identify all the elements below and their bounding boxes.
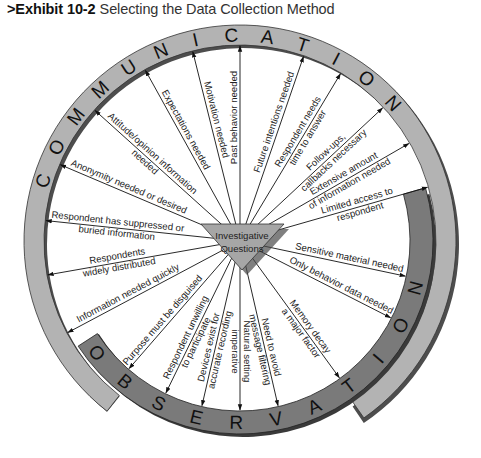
spoke-label: imperative xyxy=(230,329,241,373)
svg-text:C: C xyxy=(224,24,239,46)
spoke-sensitive-material: Sensitive material needed xyxy=(256,240,406,276)
spoke-label: Natural setting xyxy=(242,321,253,383)
arrow-icon xyxy=(95,111,228,231)
spoke-label: Past behavior needed xyxy=(228,71,239,164)
data-collection-wheel: COMMUNICATIONOBSERVATION Anonymity neede… xyxy=(0,0,481,458)
center-label-line2: Questions xyxy=(220,243,263,254)
spoke-suppressed-info: Respondent has suppressed orburied infor… xyxy=(46,209,224,242)
svg-text:R: R xyxy=(229,412,243,433)
spoke-widely-distributed: Respondentswidely distributed xyxy=(48,244,224,279)
investigative-questions-triangle: Investigative Questions xyxy=(201,224,289,275)
center-label-line1: Investigative xyxy=(215,230,268,241)
spoke-attitude: Attitude/opinion informationneeded xyxy=(95,110,228,230)
